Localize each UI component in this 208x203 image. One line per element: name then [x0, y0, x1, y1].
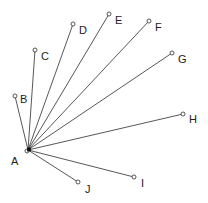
- label-j: J: [85, 183, 91, 195]
- node-b: [13, 94, 17, 98]
- label-d: D: [79, 24, 87, 36]
- node-j: [76, 180, 80, 184]
- star-graph: BCDEFGHIJA: [0, 0, 208, 203]
- label-a: A: [11, 155, 19, 167]
- edge-a-e: [28, 14, 109, 150]
- node-a: [28, 148, 31, 151]
- edge-a-h: [28, 114, 183, 150]
- node-f: [147, 19, 151, 23]
- label-g: G: [178, 53, 187, 65]
- edge-a-i: [28, 150, 134, 177]
- nodes-group: [13, 12, 185, 184]
- labels-group: BCDEFGHIJA: [11, 14, 197, 195]
- edge-a-j: [28, 150, 78, 182]
- label-h: H: [189, 113, 197, 125]
- node-h: [181, 112, 185, 116]
- node-e: [107, 12, 111, 16]
- node-c: [33, 48, 37, 52]
- label-f: F: [155, 21, 162, 33]
- label-e: E: [115, 14, 122, 26]
- edge-a-d: [28, 24, 73, 150]
- edge-a-g: [28, 53, 172, 150]
- label-i: I: [141, 177, 144, 189]
- edge-a-c: [28, 50, 35, 150]
- label-c: C: [41, 50, 49, 62]
- node-d: [71, 22, 75, 26]
- node-g: [170, 51, 174, 55]
- node-i: [132, 175, 136, 179]
- diagram-canvas: BCDEFGHIJA: [0, 0, 208, 203]
- edge-a-f: [28, 21, 149, 150]
- edges-group: [15, 14, 183, 182]
- label-b: B: [20, 93, 27, 105]
